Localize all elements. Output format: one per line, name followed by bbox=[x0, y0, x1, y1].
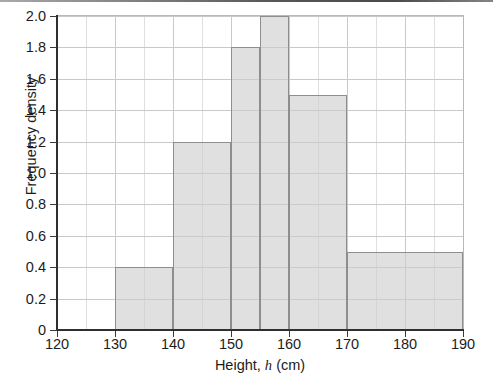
plot-area bbox=[57, 16, 463, 330]
y-axis-tick bbox=[50, 142, 57, 143]
x-axis-title-before: Height, bbox=[215, 357, 265, 373]
x-axis-tick-label: 170 bbox=[317, 337, 377, 352]
histogram-figure: Frequency density Height, h (cm) 00.20.4… bbox=[0, 0, 493, 379]
y-axis-tick-label: 0.8 bbox=[6, 197, 46, 212]
x-axis-line bbox=[56, 329, 464, 331]
histogram-bar bbox=[173, 142, 231, 330]
y-axis-tick-label: 0.2 bbox=[6, 292, 46, 307]
y-axis-tick-label: 1.6 bbox=[6, 72, 46, 87]
y-axis-tick bbox=[50, 79, 57, 80]
y-axis-tick-label: 1.8 bbox=[6, 40, 46, 55]
x-axis-tick-label: 160 bbox=[259, 337, 319, 352]
x-axis-tick-label: 120 bbox=[27, 337, 87, 352]
y-axis-tick bbox=[50, 47, 57, 48]
y-axis-tick bbox=[50, 204, 57, 205]
y-axis-tick bbox=[50, 236, 57, 237]
y-axis-tick-label: 2.0 bbox=[6, 9, 46, 24]
histogram-bar bbox=[115, 267, 173, 330]
histogram-bar bbox=[231, 47, 260, 330]
y-axis-tick bbox=[50, 267, 57, 268]
y-axis-tick bbox=[50, 173, 57, 174]
x-axis-tick-label: 130 bbox=[85, 337, 145, 352]
x-axis-title-after: (cm) bbox=[272, 357, 305, 373]
y-axis-tick-label: 1.2 bbox=[6, 135, 46, 150]
x-axis-tick-label: 180 bbox=[375, 337, 435, 352]
y-axis-tick-label: 0.4 bbox=[6, 260, 46, 275]
x-axis-tick-label: 140 bbox=[143, 337, 203, 352]
plot-frame-top bbox=[57, 15, 464, 16]
y-axis-tick bbox=[50, 299, 57, 300]
plot-frame-right bbox=[463, 15, 464, 331]
histogram-bar bbox=[289, 95, 347, 331]
y-axis-tick bbox=[50, 330, 57, 331]
y-axis-tick bbox=[50, 110, 57, 111]
x-axis-title: Height, h (cm) bbox=[57, 357, 463, 374]
page-scan-edge bbox=[0, 0, 493, 2]
histogram-bar bbox=[347, 252, 463, 331]
y-axis-tick-label: 1.4 bbox=[6, 103, 46, 118]
y-axis-tick bbox=[50, 16, 57, 17]
y-axis-tick-label: 1.0 bbox=[6, 166, 46, 181]
y-axis-tick-label: 0 bbox=[6, 323, 46, 338]
x-axis-tick-label: 150 bbox=[201, 337, 261, 352]
y-axis-tick-label: 0.6 bbox=[6, 229, 46, 244]
histogram-bar bbox=[260, 16, 289, 330]
x-axis-tick-label: 190 bbox=[433, 337, 493, 352]
